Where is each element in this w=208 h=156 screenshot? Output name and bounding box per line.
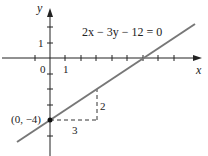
y-axis-arrow-icon <box>47 8 53 17</box>
x-axis-arrow-icon <box>193 55 202 61</box>
origin-label: 0 <box>40 63 46 75</box>
y-axis-label: y <box>36 1 43 15</box>
x-axis <box>2 55 202 61</box>
x-tick-label-1: 1 <box>63 63 69 75</box>
graph-line <box>17 24 195 142</box>
y-tick-label-1: 1 <box>38 37 44 49</box>
run-label: 3 <box>72 124 78 136</box>
equation-label: 2x − 3y − 12 = 0 <box>82 25 162 39</box>
graph-canvas: y x 1 0 1 2x − 3y − 12 = 0 (0, −4) 3 2 <box>0 0 208 156</box>
point-label: (0, −4) <box>11 113 41 126</box>
y-axis <box>47 8 53 156</box>
x-axis-label: x <box>195 63 202 77</box>
y-intercept-point <box>48 118 53 123</box>
rise-label: 2 <box>100 100 106 112</box>
